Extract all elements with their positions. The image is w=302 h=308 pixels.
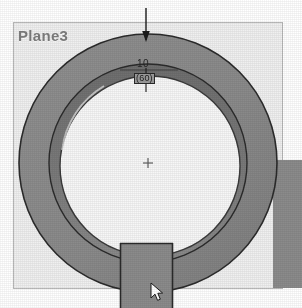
right-extrusion-block[interactable] bbox=[273, 160, 302, 288]
bottom-slot[interactable] bbox=[120, 243, 173, 308]
dimension-value-primary[interactable]: 10 bbox=[137, 59, 149, 69]
cad-viewport[interactable]: Plane3 10 (60) bbox=[0, 0, 302, 308]
cad-drawing-canvas[interactable] bbox=[0, 0, 302, 308]
dimension-value-secondary[interactable]: (60) bbox=[134, 73, 155, 84]
plane-label[interactable]: Plane3 bbox=[18, 27, 68, 44]
